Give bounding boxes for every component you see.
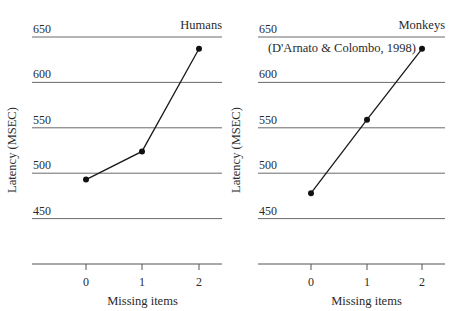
chart-subtitle: (D'Arnato & Colombo, 1998) [268,41,416,55]
y-axis-label: Latency (MSEC) [229,107,243,193]
y-tick-label: 500 [259,158,277,172]
y-tick-label: 450 [33,204,51,218]
data-point [364,117,370,123]
series-line-humans [86,49,199,180]
y-axis-label: Latency (MSEC) [5,107,19,193]
figure: 650600550500450012Missing itemsLatency (… [0,0,460,311]
y-tick-label: 650 [259,22,277,36]
y-tick-label: 600 [259,67,277,81]
y-tick-label: 600 [33,67,51,81]
x-axis-label: Missing items [331,294,402,308]
x-tick-label: 2 [419,275,425,289]
data-point [196,46,202,52]
y-tick-label: 550 [33,113,51,127]
chart-panel-monkeys: 650600550500450012Missing itemsLatency (… [229,18,445,308]
data-point [419,46,425,52]
chart-title: Humans [180,18,222,32]
data-point [308,190,314,196]
x-tick-label: 1 [364,275,370,289]
y-tick-label: 550 [259,113,277,127]
chart-panel-humans: 650600550500450012Missing itemsLatency (… [5,18,222,308]
y-tick-label: 650 [33,22,51,36]
data-point [83,177,89,183]
data-point [139,148,145,154]
x-tick-label: 1 [139,275,145,289]
x-tick-label: 0 [83,275,89,289]
y-tick-label: 500 [33,158,51,172]
chart-title: Monkeys [398,18,445,32]
y-tick-label: 450 [259,204,277,218]
x-axis-label: Missing items [107,294,178,308]
x-tick-label: 2 [196,275,202,289]
x-tick-label: 0 [308,275,314,289]
